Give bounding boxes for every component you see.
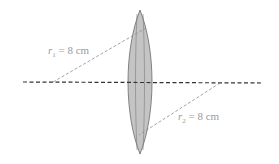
optical-axis <box>23 82 263 83</box>
label-r2: r2 = 8 cm <box>178 110 219 125</box>
lens-diagram <box>0 0 279 164</box>
label-r1: r1 = 8 cm <box>48 44 89 59</box>
